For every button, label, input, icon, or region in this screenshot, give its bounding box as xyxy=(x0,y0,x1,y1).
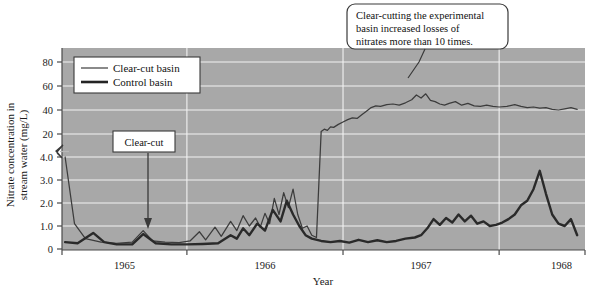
legend-label-clear-cut-basin: Clear-cut basin xyxy=(113,62,180,74)
y-tick-label-4-0: 4.0 xyxy=(40,152,53,163)
x-tick-label-1968: 1968 xyxy=(551,260,572,271)
clear-cut-explanation-line1: Clear-cutting the experimental xyxy=(356,10,484,21)
y-tick-label-3-0: 3.0 xyxy=(40,175,53,186)
y-tick-label-0: 0 xyxy=(48,244,53,255)
clear-cut-marker-label: Clear-cut xyxy=(125,137,164,148)
clear-cut-explanation-line2: basin increased losses of xyxy=(356,23,460,34)
nitrate-concentration-line-chart: 01.02.03.04.020406080 1965196619671968 Y… xyxy=(0,0,593,292)
y-tick-label-1-0: 1.0 xyxy=(40,221,53,232)
y-tick-label-60: 60 xyxy=(43,81,54,92)
y-axis-tick-labels: 01.02.03.04.020406080 xyxy=(40,57,53,255)
clear-cut-explanation-line3: nitrates more than 10 times. xyxy=(356,36,473,47)
y-axis-title-line2: stream water (mg/L) xyxy=(17,109,30,200)
legend-label-control-basin: Control basin xyxy=(113,76,173,88)
x-axis-title: Year xyxy=(313,275,334,287)
chart-svg: 01.02.03.04.020406080 1965196619671968 Y… xyxy=(0,0,593,292)
y-tick-label-80: 80 xyxy=(43,57,54,68)
y-axis-title-line1: Nitrate concentration in xyxy=(4,102,16,207)
y-tick-label-2-0: 2.0 xyxy=(40,198,53,209)
y-tick-label-40: 40 xyxy=(43,105,54,116)
y-tick-label-20: 20 xyxy=(43,129,54,140)
x-tick-label-1967: 1967 xyxy=(411,260,432,271)
x-tick-label-1966: 1966 xyxy=(254,260,275,271)
legend: Clear-cut basin Control basin xyxy=(74,57,200,93)
x-tick-label-1965: 1965 xyxy=(114,260,135,271)
